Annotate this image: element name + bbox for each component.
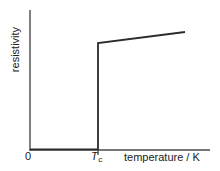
x-axis-label: temperature / K: [124, 152, 200, 163]
origin-tick-label: 0: [25, 151, 31, 162]
resistivity-curve: [30, 32, 185, 149]
plot-canvas: [0, 0, 220, 171]
resistivity-temperature-figure: resistivity temperature / K 0 Tc: [0, 0, 220, 171]
tc-subscript: c: [98, 155, 103, 164]
critical-temperature-tick-label: Tc: [91, 151, 102, 164]
tc-symbol: T: [91, 150, 98, 162]
y-axis-label: resistivity: [10, 17, 21, 83]
